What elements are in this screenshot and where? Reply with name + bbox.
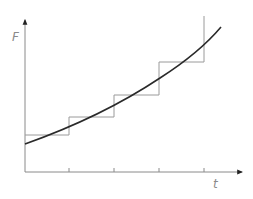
x-axis-label: t (213, 178, 218, 190)
diagram-figure (0, 0, 253, 199)
y-axis-label: F (12, 31, 19, 43)
smooth-curve (25, 27, 221, 144)
step-function (25, 16, 204, 135)
x-axis-ticks (69, 168, 204, 172)
